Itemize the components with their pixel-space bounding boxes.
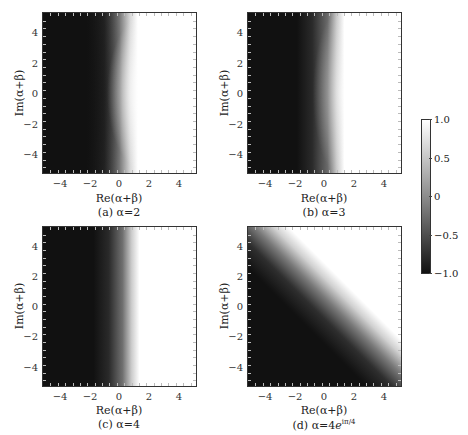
minor-tick: [139, 383, 140, 386]
minor-tick: [95, 170, 96, 173]
minor-tick: [183, 13, 184, 16]
minor-tick: [248, 129, 251, 130]
minor-tick: [398, 160, 401, 161]
minor-tick: [43, 21, 46, 22]
minor-tick: [270, 170, 271, 173]
minor-tick: [168, 170, 169, 173]
minor-tick: [193, 67, 196, 68]
minor-tick: [43, 44, 46, 45]
minor-tick: [43, 113, 46, 114]
minor-tick: [373, 13, 374, 16]
minor-tick: [248, 265, 251, 266]
minor-tick: [161, 227, 162, 230]
minor-tick: [398, 250, 401, 251]
minor-tick: [398, 144, 401, 145]
minor-tick: [344, 227, 345, 230]
minor-tick: [43, 67, 46, 68]
minor-tick: [43, 144, 46, 145]
minor-tick: [398, 36, 401, 37]
minor-tick: [109, 13, 110, 16]
minor-tick: [193, 152, 196, 153]
minor-tick: [398, 67, 401, 68]
minor-tick: [43, 167, 46, 168]
minor-tick: [43, 152, 46, 153]
colorbar-label: −0.5: [434, 230, 458, 241]
ytick: 4: [219, 27, 243, 38]
ytick: 4: [14, 27, 38, 38]
minor-tick: [278, 383, 279, 386]
minor-tick: [50, 383, 51, 386]
xtick: −2: [288, 391, 303, 402]
minor-tick: [193, 28, 196, 29]
minor-tick: [193, 319, 196, 320]
colorbar-label: −1.0: [434, 268, 458, 279]
minor-tick: [398, 167, 401, 168]
minor-tick: [337, 13, 338, 16]
xtick: −4: [258, 391, 273, 402]
minor-tick: [193, 250, 196, 251]
caption-b: (b) α=3: [303, 206, 346, 219]
minor-tick: [270, 13, 271, 16]
minor-tick: [87, 383, 88, 386]
minor-tick: [193, 235, 196, 236]
minor-tick: [270, 227, 271, 230]
minor-tick: [398, 59, 401, 60]
minor-tick: [193, 365, 196, 366]
minor-tick: [398, 327, 401, 328]
xtick: 0: [321, 178, 327, 189]
xtick: −4: [53, 391, 68, 402]
minor-tick: [351, 170, 352, 173]
colorbar-label: 1.0: [434, 114, 450, 125]
xtick: −2: [83, 178, 98, 189]
minor-tick: [43, 380, 46, 381]
minor-tick: [351, 227, 352, 230]
minor-tick: [248, 281, 251, 282]
minor-tick: [398, 304, 401, 305]
minor-tick: [366, 227, 367, 230]
minor-tick: [381, 227, 382, 230]
minor-tick: [193, 350, 196, 351]
colorbar-label: 0: [434, 191, 440, 202]
minor-tick: [263, 13, 264, 16]
ytick: −4: [14, 149, 38, 160]
minor-tick: [58, 13, 59, 16]
xtick: 0: [116, 391, 122, 402]
minor-tick: [132, 383, 133, 386]
x-axis-label: Re(α+β): [96, 404, 142, 417]
caption-d: (d) α=4eiπ/4: [293, 418, 356, 432]
minor-tick: [43, 90, 46, 91]
minor-tick: [183, 227, 184, 230]
minor-tick: [248, 304, 251, 305]
minor-tick: [248, 350, 251, 351]
caption-c: (c) α=4: [98, 418, 140, 431]
minor-tick: [398, 357, 401, 358]
minor-tick: [50, 13, 51, 16]
ytick: −4: [14, 362, 38, 373]
minor-tick: [43, 350, 46, 351]
x-axis-label: Re(α+β): [301, 404, 347, 417]
minor-tick: [300, 227, 301, 230]
minor-tick: [193, 98, 196, 99]
y-axis-label: Im(α+β): [13, 283, 26, 329]
ytick: 2: [219, 271, 243, 282]
colorbar-tick: [429, 158, 432, 159]
minor-tick: [65, 227, 66, 230]
minor-tick: [248, 342, 251, 343]
minor-tick: [154, 383, 155, 386]
minor-tick: [43, 258, 46, 259]
minor-tick: [102, 383, 103, 386]
minor-tick: [300, 383, 301, 386]
minor-tick: [154, 13, 155, 16]
minor-tick: [87, 170, 88, 173]
minor-tick: [73, 383, 74, 386]
xtick: 2: [146, 391, 152, 402]
minor-tick: [193, 160, 196, 161]
minor-tick: [398, 28, 401, 29]
xtick: 4: [381, 391, 387, 402]
minor-tick: [117, 170, 118, 173]
minor-tick: [285, 170, 286, 173]
minor-tick: [102, 170, 103, 173]
minor-tick: [359, 227, 360, 230]
minor-tick: [109, 383, 110, 386]
y-axis-label: Im(α+β): [218, 283, 231, 329]
